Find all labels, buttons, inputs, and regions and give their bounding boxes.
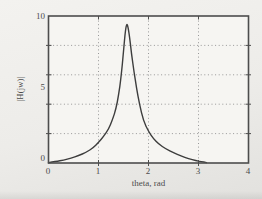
x-tick-label-2: 2	[138, 166, 158, 176]
magnitude-response-figure: 10 5 0 0 1 2 3 4 theta, rad |H(jw)|	[0, 0, 262, 199]
x-tick-label-1: 1	[88, 166, 108, 176]
y-axis-label: |H(jw)|	[15, 76, 25, 101]
x-tick-label-3: 3	[188, 166, 208, 176]
x-axis-label: theta, rad	[98, 178, 199, 188]
x-tick-label-0: 0	[38, 166, 58, 176]
x-tick-label-4: 4	[238, 166, 258, 176]
y-tick-label-10: 10	[27, 11, 45, 21]
y-tick-label-5: 5	[27, 82, 45, 92]
y-tick-label-0: 0	[27, 153, 45, 163]
